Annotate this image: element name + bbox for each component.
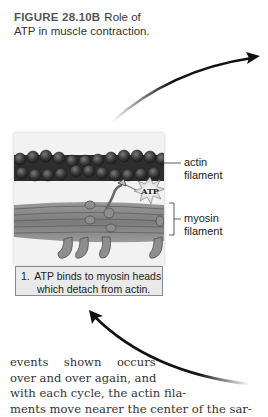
atp-starburst-icon: ATP	[134, 177, 164, 204]
body-paragraph: events shown occurs over and over again,…	[10, 355, 265, 417]
body-line: events shown occurs	[10, 355, 265, 371]
step-caption-box: 1. ATP binds to myosin heads which detac…	[15, 266, 163, 296]
myosin-label-line1: myosin	[184, 212, 223, 225]
body-line: with each cycle, the actin fila-	[10, 386, 265, 402]
muscle-illustration: ATP	[14, 133, 164, 265]
body-line: ments move nearer the center of the sar-	[10, 402, 265, 417]
figure-caption: FIGURE 28.10BRole of ATP in muscle contr…	[14, 10, 214, 38]
body-line: over and over again, and	[10, 371, 265, 387]
step-line1: 1. ATP binds to myosin heads	[21, 270, 162, 283]
cycle-arrow-forward	[112, 52, 260, 122]
actin-label-line2: filament	[184, 169, 223, 182]
step-number: 1.	[21, 270, 32, 283]
actin-label-line1: actin	[184, 156, 223, 169]
step-text-line1: ATP binds to myosin heads	[34, 270, 161, 282]
sarcomere-diagram: ATP	[14, 133, 164, 265]
figure-caption-line1: FIGURE 28.10BRole of	[14, 10, 214, 24]
figure-number: FIGURE 28.10B	[14, 11, 100, 23]
step-text-line2: which detach from actin.	[21, 283, 162, 296]
actin-filament	[14, 150, 164, 181]
figure-title-part1: Role of	[104, 11, 140, 23]
arrowhead-right-icon	[246, 52, 260, 64]
myosin-label-line2: filament	[184, 225, 223, 238]
atp-label: ATP	[140, 186, 159, 196]
actin-filament-label: actin filament	[184, 156, 223, 182]
arrowhead-left-icon	[89, 310, 103, 324]
figure-title-part2: ATP in muscle contraction.	[14, 24, 214, 38]
myosin-filament-label: myosin filament	[184, 212, 223, 238]
myosin-bracket	[169, 203, 174, 235]
